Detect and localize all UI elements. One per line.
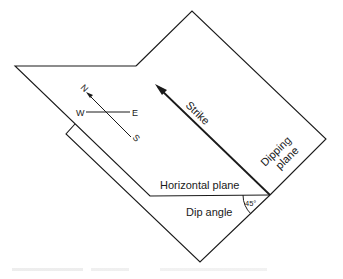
angle-value-label: 45° [245,199,256,208]
compass-south-label: S [131,132,142,143]
strike-label: Strike [184,99,213,127]
caption-faded [12,268,267,271]
compass-east-label: E [132,108,138,118]
strike-dip-diagram: N W E S Strike Dipping plane Horizontal … [0,0,343,279]
horizontal-plane-outline [15,66,270,196]
compass-ns-line [88,94,131,137]
horizontal-plane-label: Horizontal plane [160,179,240,191]
diagram-svg: N W E S Strike Dipping plane Horizontal … [0,0,343,279]
dip-angle-label: Dip angle [186,206,232,218]
compass-north-arrow-icon [86,92,93,98]
dipping-plane-outline [136,11,326,195]
compass-west-label: W [76,108,85,118]
compass-north-label: N [79,82,91,94]
